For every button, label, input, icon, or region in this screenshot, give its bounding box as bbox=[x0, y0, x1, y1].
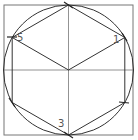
hexagon-construction-diagram: 5 1 3 bbox=[0, 0, 138, 140]
diagram-svg bbox=[0, 0, 138, 140]
vertex-label-5: 5 bbox=[17, 33, 23, 43]
vertex-label-3: 3 bbox=[58, 119, 64, 129]
vertex-label-1: 1 bbox=[113, 35, 119, 45]
